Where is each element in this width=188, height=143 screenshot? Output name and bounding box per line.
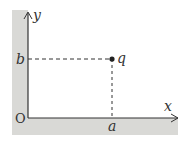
bottom-wall: [12, 118, 178, 135]
a-label: a: [108, 118, 116, 134]
diagram: y x O b a q: [0, 0, 188, 143]
q-label: q: [117, 50, 126, 66]
x-axis-label: x: [164, 98, 172, 114]
point-q: [109, 56, 114, 61]
origin-label: O: [15, 111, 26, 126]
b-label: b: [16, 51, 25, 67]
y-axis-label: y: [32, 7, 42, 23]
